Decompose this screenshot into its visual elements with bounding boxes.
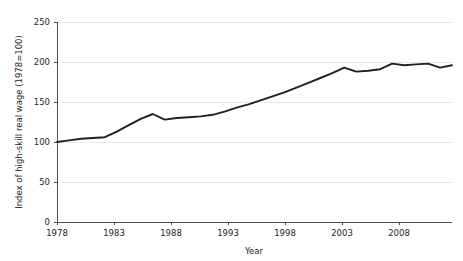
y-tick-label-150: 150 (34, 97, 50, 107)
x-tick-label-2008: 2008 (388, 228, 410, 238)
chart-figure: 250 200 150 100 50 0 1978 1983 1988 1993… (0, 0, 463, 261)
y-tick-label-100: 100 (34, 137, 50, 147)
x-tick-label-1993: 1993 (217, 228, 239, 238)
y-tick-marks (54, 23, 57, 223)
y-tick-labels: 250 200 150 100 50 0 (34, 17, 50, 227)
y-axis-title: Index of high-skill real wage (1978=100) (14, 35, 24, 209)
y-tick-label-200: 200 (34, 57, 50, 67)
series-line-high-skill-real-wage (57, 64, 452, 142)
x-tick-label-1998: 1998 (274, 228, 296, 238)
x-tick-label-1988: 1988 (160, 228, 182, 238)
x-axis-title: Year (244, 246, 264, 256)
x-tick-labels: 1978 1983 1988 1993 1998 2003 2008 (46, 228, 410, 238)
x-tick-label-2003: 2003 (331, 228, 353, 238)
x-tick-label-1978: 1978 (46, 228, 68, 238)
x-tick-label-1983: 1983 (103, 228, 125, 238)
line-chart-plot: 250 200 150 100 50 0 1978 1983 1988 1993… (0, 0, 463, 261)
axis-lines (57, 22, 452, 223)
y-tick-label-250: 250 (34, 17, 50, 27)
y-tick-label-50: 50 (39, 177, 50, 187)
y-tick-label-0: 0 (45, 217, 50, 227)
